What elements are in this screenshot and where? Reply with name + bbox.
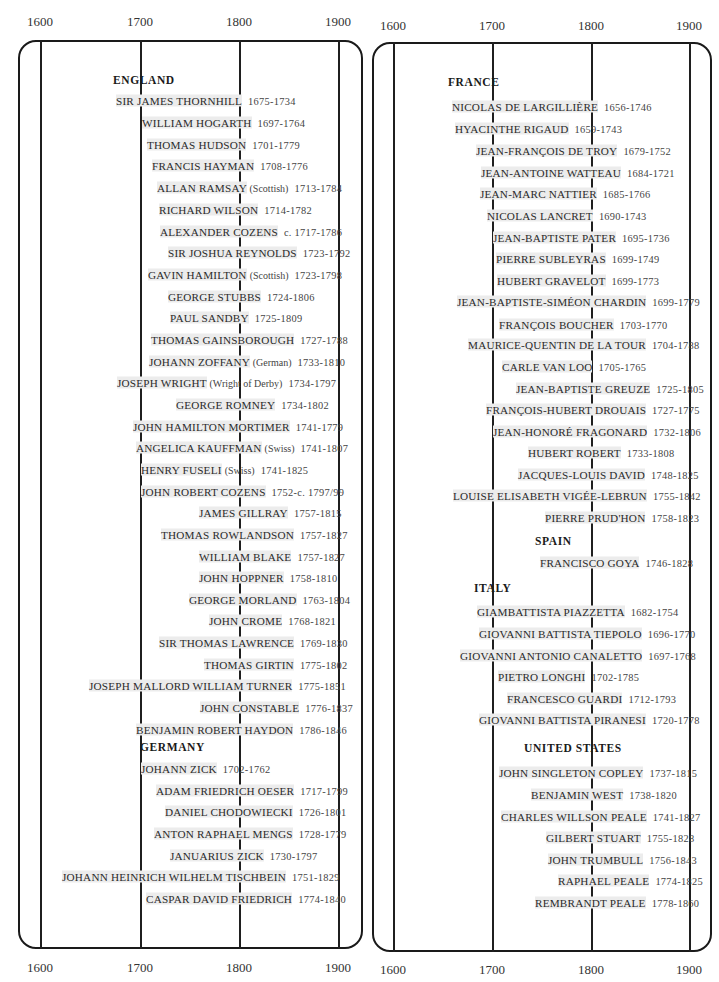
artist-name: CARLE VAN LOO <box>502 361 592 373</box>
artist-dates: 1690-1743 <box>599 211 647 222</box>
artist-row: JOHANN ZICK1702-1762 <box>141 762 271 777</box>
artist-dates: 1730-1797 <box>270 851 318 862</box>
artist-row: PAUL SANDBY1725-1809 <box>170 311 303 326</box>
country-heading: SPAIN <box>535 535 572 547</box>
artist-row: GIOVANNI ANTONIO CANALETTO1697-1768 <box>460 649 696 664</box>
artist-dates: 1746-1828 <box>645 558 693 569</box>
artist-row: FRANÇOIS BOUCHER1703-1770 <box>499 318 668 333</box>
artist-dates: 1757-1815 <box>294 508 342 519</box>
artist-row: NICOLAS DE LARGILLIÈRE1656-1746 <box>452 100 652 115</box>
artist-dates: 1769-1830 <box>300 638 348 649</box>
artist-dates: 1774-1825 <box>655 876 703 887</box>
artist-dates: 1741-1827 <box>653 812 701 823</box>
artist-dates: 1656-1746 <box>604 102 652 113</box>
artist-row: PIETRO LONGHI1702-1785 <box>498 670 639 685</box>
artist-row: WILLIAM BLAKE1757-1827 <box>199 550 345 565</box>
artist-dates: 1714-1782 <box>264 205 312 216</box>
artist-dates: 1763-1804 <box>303 595 351 606</box>
artist-dates: 1756-1843 <box>649 855 697 866</box>
artist-name: FRANÇOIS-HUBERT DROUAIS <box>486 404 646 416</box>
axis-tick-bottom: 1600 <box>27 960 53 976</box>
century-gridline <box>40 40 42 949</box>
artist-dates: 1726-1801 <box>299 807 347 818</box>
artist-dates: 1752-c. 1797/99 <box>272 487 345 498</box>
artist-dates: 1705-1765 <box>598 362 646 373</box>
artist-row: JOHANN ZOFFANY (German)1733-1810 <box>149 355 345 370</box>
artist-name: SIR JAMES THORNHILL <box>116 95 242 107</box>
artist-row: GIOVANNI BATTISTA PIRANESI1720-1778 <box>479 713 700 728</box>
artist-name: JEAN-MARC NATTIER <box>480 188 597 200</box>
axis-tick-bottom: 1700 <box>479 962 505 978</box>
artist-row: MAURICE-QUENTIN DE LA TOUR1704-1788 <box>468 338 700 353</box>
artist-row: JOHN SINGLETON COPLEY1737-1815 <box>499 766 697 781</box>
artist-name: DANIEL CHODOWIECKI <box>165 806 293 818</box>
axis-tick-bottom: 1800 <box>226 960 252 976</box>
artist-row: GEORGE ROMNEY1734-1802 <box>176 398 329 413</box>
artist-dates: 1786-1846 <box>299 725 347 736</box>
artist-name: ANTON RAPHAEL MENGS <box>154 828 293 840</box>
artist-dates: 1734-1797 <box>288 378 336 389</box>
artist-dates: 1724-1806 <box>267 292 315 303</box>
artist-name: THOMAS GIRTIN <box>204 659 294 671</box>
artist-name: JOHN CONSTABLE <box>200 702 299 714</box>
artist-dates: 1737-1815 <box>649 768 697 779</box>
artist-dates: 1741-1807 <box>301 443 349 454</box>
artist-name: JOSEPH WRIGHT <box>117 377 207 389</box>
artist-dates: 1697-1764 <box>258 118 306 129</box>
artist-row: SIR JAMES THORNHILL1675-1734 <box>116 94 296 109</box>
artist-dates: 1675-1734 <box>248 96 296 107</box>
artist-dates: 1775-1802 <box>300 660 348 671</box>
artist-name: PIETRO LONGHI <box>498 671 585 683</box>
axis-tick-top: 1900 <box>676 18 702 34</box>
artist-row: JEAN-MARC NATTIER1685-1766 <box>480 187 651 202</box>
artist-name: PAUL SANDBY <box>170 312 249 324</box>
artist-nationality-note: (Scottish) <box>250 270 289 281</box>
artist-name: HENRY FUSELI <box>141 464 222 476</box>
artist-row: GEORGE MORLAND1763-1804 <box>189 593 350 608</box>
artist-dates: 1684-1721 <box>627 168 675 179</box>
artist-row: JEAN-FRANÇOIS DE TROY1679-1752 <box>476 144 671 159</box>
country-heading: ITALY <box>474 582 512 594</box>
artist-name: JOHN SINGLETON COPLEY <box>499 767 643 779</box>
artist-name: JEAN-FRANÇOIS DE TROY <box>476 145 617 157</box>
artist-row: FRANCIS HAYMAN1708-1776 <box>152 159 308 174</box>
artist-row: FRANÇOIS-HUBERT DROUAIS1727-1775 <box>486 403 700 418</box>
artist-name: GEORGE STUBBS <box>168 291 261 303</box>
artist-dates: 1704-1788 <box>652 340 700 351</box>
artist-dates: 1702-1762 <box>223 764 271 775</box>
artist-name: JACQUES-LOUIS DAVID <box>518 469 645 481</box>
artist-row: JAMES GILLRAY1757-1815 <box>199 506 342 521</box>
artist-dates: 1699-1773 <box>612 276 660 287</box>
artist-dates: 1741-1825 <box>261 465 309 476</box>
artist-row: FRANCESCO GUARDI1712-1793 <box>507 692 676 707</box>
artist-dates: 1751-1829 <box>292 872 340 883</box>
artist-name: GIOVANNI BATTISTA PIRANESI <box>479 714 646 726</box>
artist-name: PIERRE PRUD'HON <box>545 512 645 524</box>
artist-row: SIR THOMAS LAWRENCE1769-1830 <box>159 636 348 651</box>
country-heading: GERMANY <box>140 741 205 753</box>
artist-name: JOHN TRUMBULL <box>548 854 643 866</box>
artist-dates: 1659-1743 <box>575 124 623 135</box>
artist-name: JEAN-BAPTISTE PATER <box>493 232 616 244</box>
artist-dates: 1758-1823 <box>651 513 699 524</box>
artist-row: NICOLAS LANCRET1690-1743 <box>487 209 647 224</box>
artist-row: WILLIAM HOGARTH1697-1764 <box>142 116 305 131</box>
artist-name: BENJAMIN ROBERT HAYDON <box>136 724 293 736</box>
artist-row: JOHN HOPPNER1758-1810 <box>199 571 338 586</box>
artist-row: JOSEPH MALLORD WILLIAM TURNER1775-1851 <box>89 679 346 694</box>
artist-dates: 1733-1810 <box>298 357 346 368</box>
artist-name: PIERRE SUBLEYRAS <box>496 253 606 265</box>
artist-name: HUBERT ROBERT <box>528 447 621 459</box>
artist-dates: 1697-1768 <box>648 651 696 662</box>
country-heading: UNITED STATES <box>524 742 622 754</box>
artist-dates: 1725-1805 <box>656 384 704 395</box>
artist-row: HYACINTHE RIGAUD1659-1743 <box>455 122 622 137</box>
artist-row: JOHN HAMILTON MORTIMER1741-1779 <box>133 420 343 435</box>
artist-name: THOMAS GAINSBOROUGH <box>151 334 294 346</box>
century-gridline <box>393 42 395 952</box>
axis-tick-bottom: 1600 <box>380 962 406 978</box>
artist-row: ALLAN RAMSAY (Scottish)1713-1784 <box>157 181 342 196</box>
axis-tick-top: 1900 <box>325 14 351 30</box>
artist-name: LOUISE ELISABETH VIGÉE-LEBRUN <box>453 490 647 502</box>
axis-tick-bottom: 1800 <box>578 962 604 978</box>
